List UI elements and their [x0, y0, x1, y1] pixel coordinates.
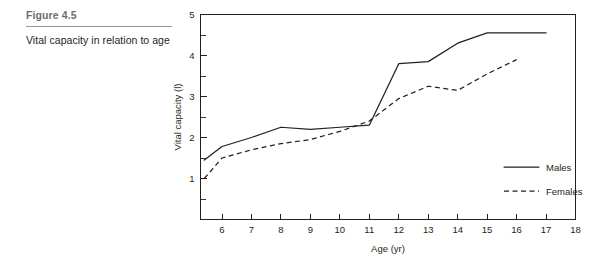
series-line-males — [204, 33, 546, 160]
x-tick-label: 9 — [308, 224, 313, 235]
x-tick-label: 17 — [541, 224, 552, 235]
x-tick-label: 12 — [393, 224, 404, 235]
y-axis-ticks — [201, 15, 207, 200]
chart-axes — [200, 14, 576, 220]
chart-legend: Males Females — [504, 162, 583, 197]
x-axis-tick-labels: 6789101112131415161718 — [219, 224, 580, 235]
x-tick-label: 18 — [570, 224, 581, 235]
chart-canvas: 12345 6789101112131415161718 Vital capac… — [0, 0, 614, 271]
y-axis-title: Vital capacity (l) — [172, 84, 183, 151]
series-line-females — [204, 60, 516, 179]
x-tick-label: 7 — [249, 224, 254, 235]
x-tick-label: 10 — [335, 224, 346, 235]
x-axis-ticks — [222, 214, 546, 220]
x-tick-label: 14 — [452, 224, 463, 235]
legend-label-females: Females — [546, 186, 583, 197]
legend-label-males: Males — [546, 162, 572, 173]
x-tick-label: 11 — [364, 224, 374, 235]
x-tick-label: 13 — [423, 224, 434, 235]
x-tick-label: 16 — [511, 224, 522, 235]
y-tick-label: 5 — [189, 9, 194, 20]
vital-capacity-line-chart: 12345 6789101112131415161718 Vital capac… — [0, 0, 614, 271]
x-tick-label: 8 — [278, 224, 283, 235]
y-tick-label: 2 — [189, 132, 194, 143]
y-axis-tick-labels: 12345 — [189, 9, 194, 184]
x-axis-title: Age (yr) — [371, 243, 405, 254]
x-tick-label: 6 — [219, 224, 224, 235]
x-tick-label: 15 — [482, 224, 493, 235]
y-tick-label: 1 — [189, 173, 194, 184]
y-tick-label: 3 — [189, 91, 194, 102]
y-tick-label: 4 — [189, 50, 194, 61]
